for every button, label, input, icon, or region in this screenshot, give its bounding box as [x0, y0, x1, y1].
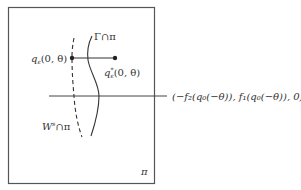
stable-manifold-curve: [72, 38, 82, 137]
gamma-curve: [88, 36, 99, 136]
stable-manifold-label: Ws∩π: [42, 120, 71, 132]
q-epsilon-label: qε(0, θ): [31, 53, 67, 65]
point-coordinates-label: (−f₂(q₀(−θ)), f₁(q₀(−θ)), 0): [172, 91, 301, 102]
diagram-canvas: Γ∩π qε(0, θ) q*ε(0, θ) Ws∩π π (−f₂(q₀(−θ…: [0, 0, 301, 190]
point-q-epsilon: [70, 56, 74, 60]
point-q-epsilon-star: [113, 56, 117, 60]
gamma-label: Γ∩π: [94, 31, 116, 42]
plane-label: π: [140, 166, 148, 177]
q-epsilon-star-label: q*ε(0, θ): [104, 66, 140, 79]
